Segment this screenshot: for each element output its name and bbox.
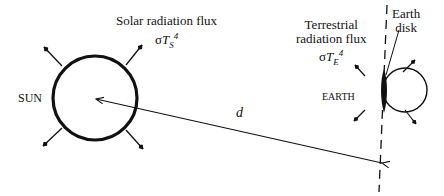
sun-group bbox=[43, 45, 143, 149]
sun-ray-up-left bbox=[44, 47, 62, 66]
earth-circle bbox=[383, 68, 427, 112]
terrestrial-flux-label: Terrestrial radiation flux σTE4 bbox=[296, 18, 366, 69]
earth-ray-down-right bbox=[405, 110, 416, 124]
sun-label: SUN bbox=[18, 91, 42, 105]
solar-flux-formula: σTS4 bbox=[116, 29, 217, 52]
earth-ray-down-left bbox=[354, 110, 365, 121]
solar-flux-text: Solar radiation flux bbox=[116, 14, 217, 28]
diagram-canvas bbox=[0, 0, 444, 196]
earth-disk bbox=[381, 69, 387, 113]
sun-ray-down-left bbox=[43, 128, 62, 146]
sun-circle bbox=[53, 56, 137, 140]
earth-disk-pointer bbox=[386, 30, 399, 75]
earth-label: EARTH bbox=[322, 90, 355, 104]
distance-label: d bbox=[236, 106, 243, 120]
solar-flux-label: Solar radiation flux σTS4 bbox=[116, 14, 217, 52]
sun-ray-down-right bbox=[126, 130, 143, 149]
earth-disk-label: Earth disk bbox=[392, 7, 420, 35]
terrestrial-flux-formula: σTE4 bbox=[296, 46, 366, 69]
